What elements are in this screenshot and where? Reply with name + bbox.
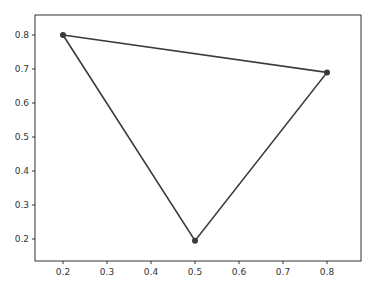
x-tick-label: 0.5 bbox=[188, 267, 202, 277]
plot-frame bbox=[35, 15, 361, 261]
series-layer bbox=[60, 32, 330, 244]
y-tick-label: 0.3 bbox=[15, 200, 29, 210]
y-tick-label: 0.8 bbox=[15, 30, 30, 40]
chart: 0.20.30.40.50.60.70.8 0.20.30.40.50.60.7… bbox=[0, 0, 371, 290]
y-tick-label: 0.6 bbox=[15, 98, 30, 108]
y-tick-label: 0.4 bbox=[15, 166, 30, 176]
x-axis: 0.20.30.40.50.60.70.8 bbox=[56, 261, 335, 277]
y-tick-label: 0.5 bbox=[15, 132, 29, 142]
y-tick-label: 0.7 bbox=[15, 64, 29, 74]
series-line-triangle bbox=[63, 35, 327, 241]
data-point bbox=[324, 69, 330, 75]
data-point bbox=[60, 32, 66, 38]
x-tick-label: 0.6 bbox=[232, 267, 247, 277]
x-tick-label: 0.4 bbox=[144, 267, 159, 277]
y-tick-label: 0.2 bbox=[15, 234, 29, 244]
x-tick-label: 0.7 bbox=[276, 267, 290, 277]
x-tick-label: 0.8 bbox=[320, 267, 335, 277]
x-tick-label: 0.3 bbox=[100, 267, 114, 277]
y-axis: 0.20.30.40.50.60.70.8 bbox=[15, 30, 35, 244]
x-tick-label: 0.2 bbox=[56, 267, 70, 277]
data-point bbox=[192, 238, 198, 244]
